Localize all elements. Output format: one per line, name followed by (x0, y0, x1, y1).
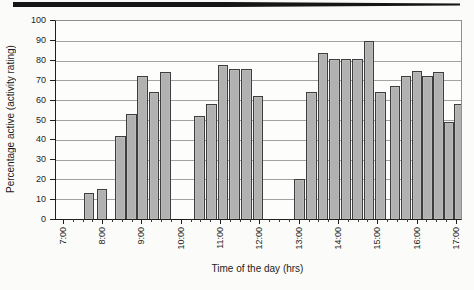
x-axis-title: Time of the day (hrs) (55, 263, 460, 274)
x-minor-tick (407, 219, 408, 222)
bar (433, 72, 444, 219)
bar (218, 65, 229, 219)
y-tick-label: 30 (36, 154, 46, 164)
x-minor-tick (446, 219, 447, 222)
x-minor-tick (328, 219, 329, 222)
x-axis: 7:008:009:0010:0011:0012:0013:0014:0015:… (55, 219, 461, 269)
y-tick-label: 90 (36, 35, 46, 45)
x-tick (181, 219, 182, 224)
bar (329, 59, 340, 219)
bar (160, 72, 171, 219)
x-tick-label: 7:00 (58, 227, 68, 245)
y-tick (50, 40, 55, 41)
x-minor-tick (210, 219, 211, 222)
x-tick-label: 12:00 (254, 227, 264, 250)
x-minor-tick (171, 219, 172, 222)
x-tick (338, 219, 339, 224)
x-tick-label: 11:00 (215, 227, 225, 249)
x-tick-label: 9:00 (136, 227, 146, 245)
bar (306, 92, 317, 219)
y-tick (50, 199, 55, 200)
x-minor-tick (92, 219, 93, 222)
y-axis: 0102030405060708090100 (0, 20, 55, 219)
y-tick-label: 40 (36, 134, 46, 144)
x-tick (63, 219, 64, 224)
bar (412, 71, 423, 220)
y-tick (50, 179, 55, 180)
bar (126, 114, 137, 219)
bar (444, 122, 455, 219)
bar (241, 69, 252, 219)
x-tick (220, 219, 221, 224)
x-minor-tick (309, 219, 310, 222)
y-tick (50, 80, 55, 81)
x-minor-tick (122, 219, 123, 222)
x-minor-tick (230, 219, 231, 222)
bar (149, 92, 160, 219)
x-tick-label: 15:00 (372, 227, 382, 250)
bar (375, 92, 386, 219)
x-minor-tick (348, 219, 349, 222)
y-tick (50, 100, 55, 101)
bar (454, 104, 461, 219)
x-tick (299, 219, 300, 224)
x-tick-label: 16:00 (412, 227, 422, 250)
x-minor-tick (269, 219, 270, 222)
bar (97, 189, 108, 219)
x-tick-label: 13:00 (294, 227, 304, 250)
bar (294, 179, 305, 219)
x-minor-tick (151, 219, 152, 222)
y-tick-label: 0 (41, 214, 46, 224)
bar (390, 86, 401, 219)
x-tick-label: 8:00 (97, 227, 107, 245)
y-tick-label: 70 (36, 75, 46, 85)
bar (318, 53, 329, 219)
x-minor-tick (358, 219, 359, 222)
scanned-page: Percentage active (activity rating) 0102… (0, 0, 474, 290)
x-tick (259, 219, 260, 224)
page-header-rule (13, 2, 460, 7)
bar (137, 76, 148, 219)
x-tick (141, 219, 142, 224)
x-minor-tick (161, 219, 162, 222)
y-tick (50, 20, 55, 21)
bar (206, 104, 217, 219)
bar (364, 41, 375, 219)
x-minor-tick (200, 219, 201, 222)
x-tick-label: 14:00 (333, 227, 343, 250)
x-minor-tick (318, 219, 319, 222)
y-tick (50, 120, 55, 121)
y-tick-label: 60 (36, 95, 46, 105)
x-tick (377, 219, 378, 224)
bar (341, 59, 352, 219)
x-minor-tick (279, 219, 280, 222)
x-minor-tick (387, 219, 388, 222)
x-minor-tick (426, 219, 427, 222)
x-tick (456, 219, 457, 224)
y-tick (50, 139, 55, 140)
plot-area (55, 20, 462, 220)
x-minor-tick (240, 219, 241, 222)
y-tick-label: 100 (31, 15, 46, 25)
bar (401, 76, 412, 219)
x-minor-tick (289, 219, 290, 222)
x-minor-tick (73, 219, 74, 222)
y-tick (50, 60, 55, 61)
x-tick-label: 10:00 (176, 227, 186, 250)
y-tick (50, 159, 55, 160)
bar (253, 96, 264, 219)
bar (352, 59, 363, 219)
bar (84, 193, 95, 219)
y-tick-label: 50 (36, 115, 46, 125)
x-minor-tick (436, 219, 437, 222)
x-minor-tick (132, 219, 133, 222)
x-minor-tick (112, 219, 113, 222)
bar (229, 69, 240, 219)
x-minor-tick (367, 219, 368, 222)
x-minor-tick (191, 219, 192, 222)
x-minor-tick (250, 219, 251, 222)
x-tick (102, 219, 103, 224)
x-minor-tick (397, 219, 398, 222)
y-tick-label: 80 (36, 55, 46, 65)
x-minor-tick (83, 219, 84, 222)
